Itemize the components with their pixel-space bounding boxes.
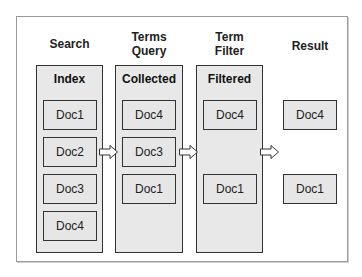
index-doc-2: Doc2 bbox=[43, 137, 97, 167]
heading-terms-query-line1: Terms bbox=[115, 30, 183, 44]
filtered-title: Filtered bbox=[197, 72, 262, 86]
heading-term-filter-line1: Term bbox=[196, 30, 263, 44]
index-doc-1: Doc1 bbox=[43, 100, 97, 130]
heading-terms-query: Terms Query bbox=[115, 30, 183, 58]
arrow-right-icon bbox=[179, 145, 198, 159]
filtered-doc-2: Doc1 bbox=[203, 174, 257, 204]
result-doc-1: Doc4 bbox=[283, 100, 337, 130]
heading-term-filter: Term Filter bbox=[196, 30, 263, 58]
filtered-doc-1: Doc4 bbox=[203, 100, 257, 130]
heading-term-filter-line2: Filter bbox=[196, 44, 263, 58]
index-doc-3: Doc3 bbox=[43, 174, 97, 204]
result-doc-2: Doc1 bbox=[283, 174, 337, 204]
heading-result: Result bbox=[282, 39, 338, 53]
filtered-column: Filtered Doc4 Doc1 bbox=[196, 65, 263, 253]
collected-doc-2: Doc3 bbox=[122, 137, 176, 167]
arrow-right-icon bbox=[99, 145, 118, 159]
collected-column: Collected Doc4 Doc3 Doc1 bbox=[115, 65, 183, 253]
heading-search: Search bbox=[36, 37, 103, 51]
heading-terms-query-line2: Query bbox=[115, 44, 183, 58]
collected-doc-1: Doc4 bbox=[122, 100, 176, 130]
index-doc-4: Doc4 bbox=[43, 211, 97, 241]
collected-title: Collected bbox=[116, 72, 182, 86]
index-column: Index Doc1 Doc2 Doc3 Doc4 bbox=[36, 65, 103, 253]
collected-doc-3: Doc1 bbox=[122, 174, 176, 204]
index-title: Index bbox=[37, 72, 102, 86]
arrow-right-icon bbox=[260, 145, 279, 159]
